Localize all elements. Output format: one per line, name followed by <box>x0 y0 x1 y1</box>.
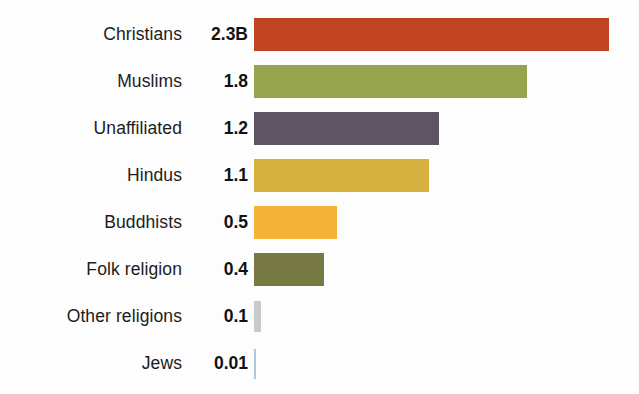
chart-row: Jews 0.01 <box>0 340 639 387</box>
bar-track <box>254 340 639 387</box>
category-label: Folk religion <box>0 259 182 280</box>
chart-row: Christians 2.3B <box>0 11 639 58</box>
bar-muslims <box>254 65 527 98</box>
category-label: Unaffiliated <box>0 118 182 139</box>
bar-track <box>254 199 639 246</box>
chart-row: Hindus 1.1 <box>0 152 639 199</box>
value-label: 2.3B <box>182 24 254 45</box>
category-label: Buddhists <box>0 212 182 233</box>
bar-track <box>254 105 639 152</box>
value-label: 1.1 <box>182 165 254 186</box>
bar-christians <box>254 18 609 51</box>
chart-row: Muslims 1.8 <box>0 58 639 105</box>
category-label: Other religions <box>0 306 182 327</box>
chart-row: Folk religion 0.4 <box>0 246 639 293</box>
bar-jews <box>254 349 256 379</box>
bar-hindus <box>254 159 429 192</box>
bar-folk-religion <box>254 253 324 286</box>
bar-track <box>254 246 639 293</box>
category-label: Hindus <box>0 165 182 186</box>
bar-other-religions <box>254 301 261 332</box>
chart-row: Buddhists 0.5 <box>0 199 639 246</box>
value-label: 0.1 <box>182 306 254 327</box>
category-label: Muslims <box>0 71 182 92</box>
religion-population-bar-chart: Christians 2.3B Muslims 1.8 Unaffiliated… <box>0 0 639 394</box>
bar-buddhists <box>254 206 337 239</box>
category-label: Jews <box>0 353 182 374</box>
bar-track <box>254 152 639 199</box>
chart-rows: Christians 2.3B Muslims 1.8 Unaffiliated… <box>0 11 639 387</box>
value-label: 1.2 <box>182 118 254 139</box>
value-label: 0.01 <box>182 353 254 374</box>
chart-row: Other religions 0.1 <box>0 293 639 340</box>
value-label: 0.4 <box>182 259 254 280</box>
bar-track <box>254 58 639 105</box>
bar-track <box>254 11 639 58</box>
bar-track <box>254 293 639 340</box>
chart-row: Unaffiliated 1.2 <box>0 105 639 152</box>
value-label: 1.8 <box>182 71 254 92</box>
category-label: Christians <box>0 24 182 45</box>
value-label: 0.5 <box>182 212 254 233</box>
bar-unaffiliated <box>254 112 439 145</box>
